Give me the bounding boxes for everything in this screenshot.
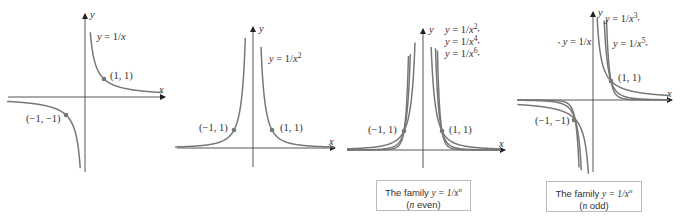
caption-math: y = 1/x bbox=[431, 188, 458, 198]
x-axis-label: x bbox=[498, 138, 504, 149]
legend-n5: y = 1/x5• bbox=[612, 36, 648, 49]
x-axis-label: x bbox=[328, 136, 334, 147]
point-neg1-neg1 bbox=[64, 113, 69, 118]
panel-reciprocal-square: x y (−1, 1) (1, 1) y = 1/x2 bbox=[175, 23, 335, 167]
curve-1-over-x-negative-branch bbox=[7, 101, 80, 168]
curve-n6 bbox=[347, 50, 501, 150]
caption-parity: even) bbox=[414, 199, 440, 210]
caption-family-odd: The family y = 1/xn (n odd) bbox=[546, 181, 642, 212]
caption-prefix: The family bbox=[556, 188, 602, 199]
caption-exponent: n bbox=[629, 187, 633, 195]
equation-label: y = 1/x bbox=[96, 31, 126, 42]
caption-line-1: The family y = 1/xn bbox=[551, 185, 637, 200]
point-1-1 bbox=[440, 129, 445, 134]
legend-n6: y = 1/x6• bbox=[444, 46, 480, 59]
x-axis-label: x bbox=[666, 88, 672, 99]
legend-n1: • y = 1/x bbox=[558, 36, 592, 47]
panel-family-odd: x y (1, 1) (−1, −1) y = 1/x3• • y = 1/x … bbox=[517, 7, 672, 174]
y-axis-label: y bbox=[258, 23, 264, 34]
y-axis-label: y bbox=[428, 24, 434, 35]
point-label-neg1-1: (−1, 1) bbox=[368, 124, 397, 136]
point-1-1 bbox=[102, 77, 107, 82]
point-neg1-neg1 bbox=[572, 118, 577, 123]
caption-prefix: The family bbox=[385, 187, 431, 198]
caption-math: y = 1/x bbox=[602, 189, 629, 199]
caption-line-1: The family y = 1/xn bbox=[381, 184, 466, 199]
caption-exponent: n bbox=[458, 186, 462, 194]
point-label-1-1: (1, 1) bbox=[618, 72, 641, 84]
caption-line-2: (n even) bbox=[381, 199, 466, 211]
point-label-neg1-1: (−1, 1) bbox=[199, 122, 228, 134]
caption-line-2: (n odd) bbox=[551, 200, 637, 212]
point-label-neg1-neg1: (−1, −1) bbox=[26, 113, 61, 125]
point-label-1-1: (1, 1) bbox=[280, 122, 303, 134]
point-1-1 bbox=[270, 128, 275, 133]
point-label-1-1: (1, 1) bbox=[110, 70, 133, 82]
legend-n3: y = 1/x3• bbox=[604, 11, 640, 24]
point-neg1-1 bbox=[402, 129, 407, 134]
point-neg1-1 bbox=[232, 128, 237, 133]
panel-family-even: x y (−1, 1) (1, 1) y = 1/x2• y = 1/x4• y… bbox=[347, 22, 505, 168]
point-label-1-1: (1, 1) bbox=[449, 124, 472, 136]
panel-reciprocal: x y (1, 1) (−1, −1) y = 1/x bbox=[7, 9, 165, 172]
point-label-neg1-neg1: (−1, −1) bbox=[535, 115, 570, 127]
y-axis-label: y bbox=[597, 7, 603, 18]
equation-label: y = 1/x2 bbox=[268, 51, 302, 64]
x-axis-label: x bbox=[158, 84, 164, 95]
caption-family-even: The family y = 1/xn (n even) bbox=[376, 180, 471, 211]
point-1-1 bbox=[609, 79, 614, 84]
y-axis-label: y bbox=[89, 9, 95, 20]
caption-parity: odd) bbox=[587, 200, 609, 211]
